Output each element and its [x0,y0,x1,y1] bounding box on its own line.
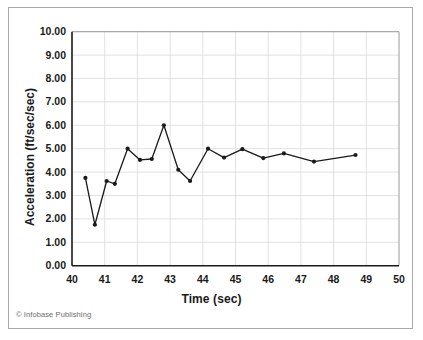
x-tick-label: 45 [221,273,251,285]
data-point-marker [188,179,192,183]
x-tick-label: 49 [351,273,381,285]
data-point-marker [93,223,97,227]
y-tick-label: 0.00 [26,259,66,271]
data-point-marker [138,158,142,162]
x-tick-label: 47 [286,273,316,285]
data-point-marker [261,156,265,160]
y-tick-label: 1.00 [26,236,66,248]
y-tick-label: 6.00 [26,119,66,131]
data-point-marker [353,153,357,157]
x-tick-label: 42 [122,273,152,285]
data-point-marker [282,151,286,155]
x-tick-label: 40 [57,273,87,285]
y-tick-label: 5.00 [26,142,66,154]
y-tick-label: 2.00 [26,212,66,224]
x-axis-title: Time (sec) [0,292,423,306]
y-tick-label: 7.00 [26,95,66,107]
x-tick-label: 43 [155,273,185,285]
data-point-marker [125,147,129,151]
x-tick-label: 41 [90,273,120,285]
x-tick-label: 46 [253,273,283,285]
y-tick-label: 10.00 [26,25,66,37]
chart-page: Acceleration (ft/sec/sec) Time (sec) 0.0… [0,0,423,340]
data-point-marker [312,159,316,163]
y-axis-title: Acceleration (ft/sec/sec) [23,27,37,287]
y-tick-label: 4.00 [26,166,66,178]
y-tick-label: 9.00 [26,49,66,61]
data-point-marker [240,147,244,151]
data-point-marker [206,147,210,151]
data-point-marker [105,179,109,183]
data-point-marker [176,168,180,172]
data-point-marker [83,176,87,180]
data-point-marker [222,155,226,159]
data-point-marker [162,123,166,127]
y-tick-label: 8.00 [26,72,66,84]
data-point-marker [150,157,154,161]
x-tick-label: 44 [188,273,218,285]
x-tick-label: 50 [384,273,414,285]
copyright-notice: © Infobase Publishing [16,310,91,319]
data-series-line [85,125,355,224]
data-point-marker [113,182,117,186]
x-tick-label: 48 [319,273,349,285]
y-tick-label: 3.00 [26,189,66,201]
